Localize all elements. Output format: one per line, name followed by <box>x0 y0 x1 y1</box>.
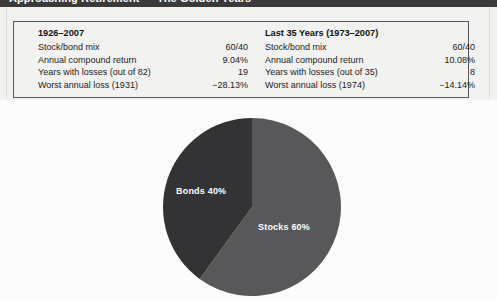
paper-edge-left <box>6 7 7 100</box>
stats-panel-title: Last 35 Years (1973–2007) <box>265 28 475 38</box>
stats-panel-last-35-years: Last 35 Years (1973–2007) Stock/bond mix… <box>265 28 475 91</box>
table-row: Stock/bond mix 60/40 <box>265 41 475 54</box>
pie-slice-label-stocks: Stocks 60% <box>258 222 310 232</box>
pie-svg <box>163 118 341 296</box>
table-row: Years with losses (out of 35) 8 <box>265 66 475 79</box>
header-bar: Approaching Retirement — The Golden Year… <box>0 0 497 7</box>
statistics-box: 1926–2007 Stock/bond mix 60/40 Annual co… <box>13 21 469 98</box>
page-root: Approaching Retirement — The Golden Year… <box>0 0 497 300</box>
row-value: 60/40 <box>225 41 248 54</box>
paper-edge-right <box>489 7 490 100</box>
row-value: 19 <box>238 66 248 79</box>
table-row: Annual compound return 9.04% <box>38 54 248 67</box>
row-value: 9.04% <box>222 54 248 67</box>
table-row: Years with losses (out of 82) 19 <box>38 66 248 79</box>
row-label: Stock/bond mix <box>265 41 327 54</box>
row-label: Annual compound return <box>38 54 137 67</box>
row-value: 60/40 <box>452 41 475 54</box>
table-row: Worst annual loss (1931) −28.13% <box>38 79 248 92</box>
table-row: Stock/bond mix 60/40 <box>38 41 248 54</box>
row-label: Years with losses (out of 35) <box>265 66 378 79</box>
row-label: Annual compound return <box>265 54 364 67</box>
stats-panel-1926-2007: 1926–2007 Stock/bond mix 60/40 Annual co… <box>38 28 248 91</box>
row-value: −28.13% <box>212 79 248 92</box>
row-value: −14.14% <box>439 79 475 92</box>
row-label: Stock/bond mix <box>38 41 100 54</box>
table-row: Annual compound return 10.08% <box>265 54 475 67</box>
row-label: Worst annual loss (1974) <box>265 79 365 92</box>
asset-allocation-pie-chart: Bonds 40% Stocks 60% <box>163 118 341 296</box>
row-value: 8 <box>470 66 475 79</box>
stats-panel-title: 1926–2007 <box>38 28 248 38</box>
page-title: Approaching Retirement — The Golden Year… <box>9 0 251 5</box>
table-row: Worst annual loss (1974) −14.14% <box>265 79 475 92</box>
row-value: 10.08% <box>444 54 475 67</box>
row-label: Years with losses (out of 82) <box>38 66 151 79</box>
row-label: Worst annual loss (1931) <box>38 79 138 92</box>
pie-slice-label-bonds: Bonds 40% <box>176 186 226 196</box>
